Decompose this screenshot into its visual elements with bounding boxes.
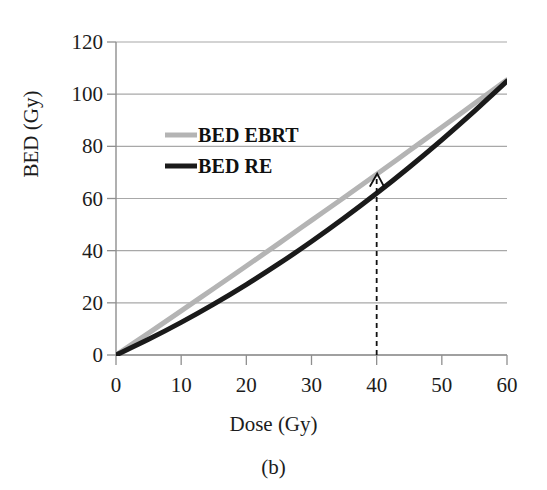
y-axis-title-text: BED (Gy) bbox=[21, 91, 42, 178]
y-tick-label: 20 bbox=[45, 292, 103, 313]
x-tick-label: 0 bbox=[111, 375, 122, 396]
x-axis-ticks bbox=[116, 355, 507, 365]
data-series bbox=[116, 80, 507, 355]
legend-label-bed-ebrt: BED EBRT bbox=[198, 124, 299, 147]
gridlines bbox=[116, 42, 507, 355]
y-tick-label: 60 bbox=[45, 188, 103, 209]
y-tick-label: 0 bbox=[45, 345, 103, 366]
x-tick-label: 40 bbox=[366, 375, 387, 396]
x-tick-label: 60 bbox=[497, 375, 518, 396]
x-tick-label: 30 bbox=[301, 375, 322, 396]
y-axis-title: BED (Gy) bbox=[21, 148, 42, 178]
figure-panel-b: 020406080100120 0102030405060 BED (Gy) D… bbox=[0, 0, 547, 490]
legend-label-bed-re: BED RE bbox=[198, 155, 273, 178]
x-axis-title: Dose (Gy) bbox=[0, 414, 547, 435]
x-tick-label: 10 bbox=[171, 375, 192, 396]
annotation-arrow bbox=[370, 174, 384, 355]
y-tick-label: 120 bbox=[45, 32, 103, 53]
y-axis-ticks bbox=[107, 42, 116, 355]
y-tick-label: 100 bbox=[45, 84, 103, 105]
x-tick-label: 50 bbox=[431, 375, 452, 396]
y-tick-label: 40 bbox=[45, 240, 103, 261]
panel-caption: (b) bbox=[0, 455, 547, 480]
x-tick-label: 20 bbox=[236, 375, 257, 396]
series-line-bed-ebrt bbox=[116, 80, 507, 355]
y-tick-label: 80 bbox=[45, 136, 103, 157]
